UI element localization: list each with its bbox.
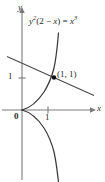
math-figure: y2(2 − x) = x3 (1, 1) y x 0 1 1 [0, 0, 105, 182]
x-axis-label: x [97, 104, 101, 113]
origin-label: 0 [14, 112, 19, 121]
y-tick-label: 1 [8, 72, 13, 81]
curve-lower-branch [22, 110, 59, 182]
tangent-line [7, 57, 94, 96]
x-tick-label: 1 [45, 113, 50, 122]
x-axis-arrow-icon [90, 107, 96, 112]
tangency-point-marker [52, 75, 56, 79]
equation-annotation: y2(2 − x) = x3 [29, 17, 77, 26]
equation-paren-close: ) = [57, 16, 70, 26]
equation-paren-open: (2 − [36, 16, 53, 26]
y-axis-label: y [18, 3, 22, 12]
equation-exp-3: 3 [74, 14, 77, 21]
y-axis [19, 7, 26, 180]
plot-canvas [0, 0, 105, 182]
point-label: (1, 1) [57, 70, 77, 79]
